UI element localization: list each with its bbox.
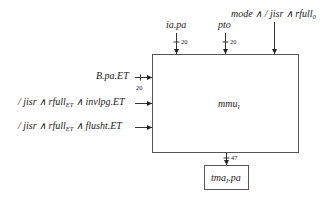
input-pto-width: 20	[230, 38, 237, 45]
input-bpa-et-width: 20	[136, 84, 143, 91]
input-ia-pa-width: 20	[181, 38, 188, 45]
input-pto-label: pto	[217, 19, 231, 30]
input-flusht-label: / jisr ∧ rfullET ∧ flusht.ET	[17, 120, 123, 132]
input-mode-label: mode ∧ / jisr ∧ rfull0	[231, 8, 317, 20]
output-block-label: tmaI.pa	[211, 172, 241, 184]
input-ia-pa-label: ia.pa	[166, 19, 186, 30]
input-invlpg-label: / jisr ∧ rfullET ∧ invlpg.ET	[17, 96, 126, 108]
output-width: 47	[231, 154, 238, 161]
mmu-block-label: mmuI	[218, 98, 240, 110]
mmu-block-diagram: mmuI ia.pa 20 pto 20 mode ∧ / jisr ∧ rfu…	[0, 0, 334, 199]
input-bpa-et-label: B.pa.ET	[96, 70, 130, 81]
